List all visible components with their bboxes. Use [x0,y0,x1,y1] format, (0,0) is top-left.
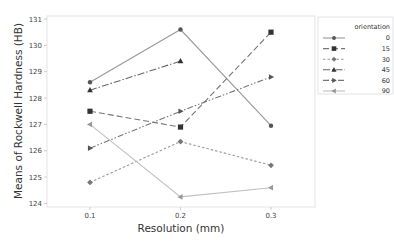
square-marker-icon [332,46,337,51]
y-tick-label: 127 [29,121,42,129]
y-tick-label: 131 [29,16,42,24]
legend-label: 30 [382,56,390,64]
y-tick-label: 125 [29,174,42,182]
legend-title: orientation [354,23,390,31]
y-tick-label: 130 [29,42,42,50]
y-tick-label: 128 [29,95,42,103]
legend-label: 45 [382,66,390,74]
x-axis: 0.10.20.3 [84,207,276,220]
circle-marker-icon [269,124,273,128]
circle-marker-icon [178,27,182,31]
legend-label: 0 [386,34,390,42]
y-axis-title: Means of Rockwell Hardness (HB) [12,23,24,199]
x-tick-label: 0.3 [265,212,276,220]
y-axis: 124125126127128129130131 [29,16,47,209]
square-marker-icon [268,30,273,35]
legend-label: 90 [382,87,390,95]
main-effects-chart: 124125126127128129130131 0.10.20.3 Means… [0,0,394,247]
y-tick-label: 129 [29,68,42,76]
circle-marker-icon [88,80,92,84]
legend-label: 60 [382,77,390,85]
x-tick-label: 0.2 [175,212,186,220]
square-marker-icon [178,124,183,129]
y-tick-label: 126 [29,147,43,155]
x-tick-label: 0.1 [84,212,95,220]
x-axis-title: Resolution (mm) [138,222,225,234]
y-tick-label: 124 [29,200,43,208]
legend-label: 15 [382,45,390,53]
square-marker-icon [87,109,92,114]
circle-marker-icon [332,36,336,40]
